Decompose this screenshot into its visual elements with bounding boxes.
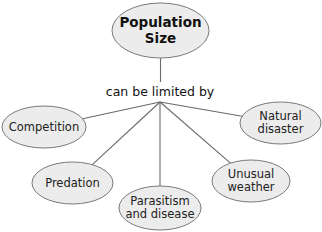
factor-natural-disaster-label: Natural disaster <box>240 102 321 144</box>
factor-parasitism-label: Parasitism and disease <box>119 186 201 230</box>
line-to-predation <box>92 102 160 165</box>
connector-label: can be limited by <box>100 84 220 99</box>
line-to-natural-disaster <box>160 102 242 116</box>
factor-predation-label: Predation <box>32 162 113 204</box>
line-to-unusual-weather <box>160 102 230 163</box>
factor-unusual-weather-label: Unusual weather <box>212 160 290 202</box>
factor-competition-label: Competition <box>2 106 86 148</box>
root-node-label: Population Size <box>112 3 209 58</box>
line-to-competition <box>83 102 160 119</box>
